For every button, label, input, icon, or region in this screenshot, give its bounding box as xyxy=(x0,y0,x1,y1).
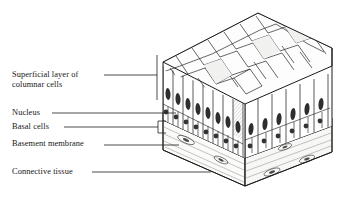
figure-canvas: Superficial layer of columnar cells Nucl… xyxy=(0,0,340,198)
tissue-block xyxy=(160,11,334,186)
label-superficial-columnar: Superficial layer of columnar cells xyxy=(12,70,78,89)
label-connective-tissue: Connective tissue xyxy=(12,167,73,177)
label-basement-membrane: Basement membrane xyxy=(12,139,84,149)
label-nucleus: Nucleus xyxy=(12,108,40,118)
label-basal-cells: Basal cells xyxy=(12,122,49,132)
